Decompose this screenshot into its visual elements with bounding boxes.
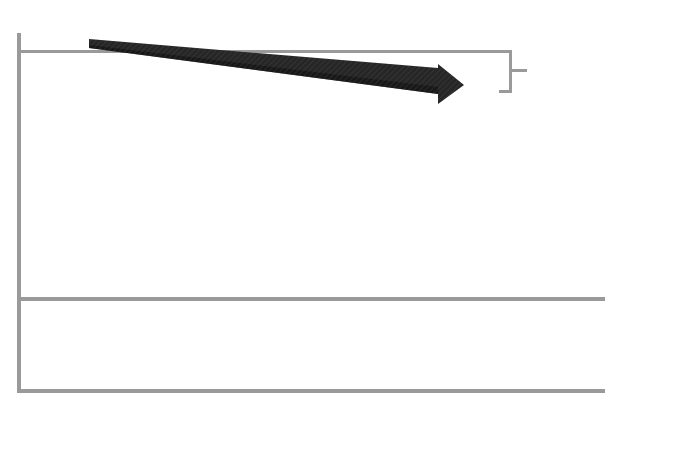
decline-arrow-hatch (89, 39, 464, 104)
decline-arrow (0, 0, 687, 475)
revenue-level-line (17, 50, 509, 53)
decline-arrow-body (89, 39, 464, 104)
efficiency-bracket-hook (499, 90, 512, 93)
chart-canvas (0, 0, 687, 475)
top-time-axis (17, 297, 605, 301)
euro-axis-line (17, 33, 21, 393)
legend (0, 438, 687, 468)
efficiency-bracket-tick (512, 69, 527, 72)
bottom-time-axis (17, 389, 605, 393)
